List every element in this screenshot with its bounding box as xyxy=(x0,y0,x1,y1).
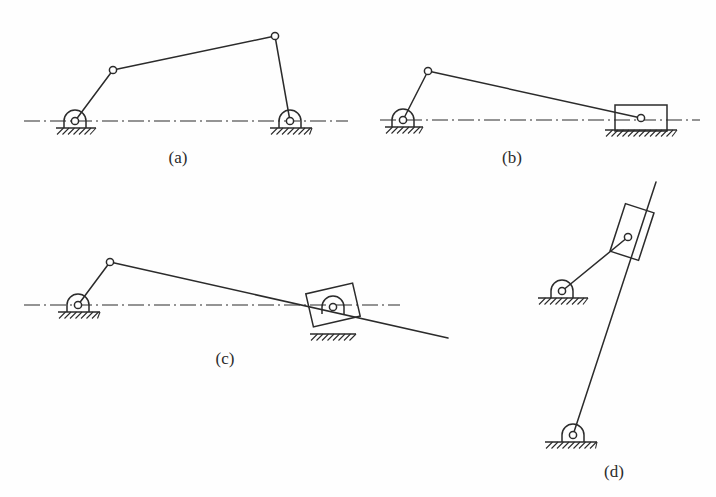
right-ground-pivot[interactable] xyxy=(279,110,301,128)
panel-c xyxy=(24,258,448,340)
hatch-tick xyxy=(328,334,335,341)
hatch-tick xyxy=(293,128,300,135)
panel-label-b: (b) xyxy=(502,148,522,167)
left-ground-base xyxy=(56,128,96,135)
upper-ground-base xyxy=(538,298,588,305)
panel-b xyxy=(380,67,700,136)
left-ground-pivot[interactable] xyxy=(64,110,86,128)
hatch-tick xyxy=(572,298,579,305)
hatch-tick xyxy=(578,298,585,305)
panel-labels-group: (a)(b)(c)(d) xyxy=(169,148,624,481)
tilted-slider-block[interactable] xyxy=(610,204,654,261)
hatch-tick xyxy=(81,312,88,319)
figure-root: (a)(b)(c)(d) xyxy=(0,0,716,497)
block-pin-joint[interactable] xyxy=(624,233,631,240)
hatch-tick xyxy=(322,334,329,341)
hatch-tick xyxy=(408,127,415,134)
hatch-tick xyxy=(563,442,570,449)
hatch-tick xyxy=(277,128,284,135)
short-crank-link[interactable] xyxy=(562,237,628,291)
hatch-tick xyxy=(606,130,613,137)
hatch-tick xyxy=(339,334,346,341)
hatch-tick xyxy=(85,128,92,135)
crank-link[interactable] xyxy=(75,70,113,121)
hatch-tick xyxy=(65,312,72,319)
hatch-tick xyxy=(539,298,546,305)
hatch-tick xyxy=(59,312,66,319)
pivot-pin xyxy=(286,117,293,124)
panel-a xyxy=(24,32,348,134)
hatch-tick xyxy=(579,442,586,449)
hatch-tick xyxy=(556,298,563,305)
connecting-rod[interactable] xyxy=(428,71,641,118)
lower-ground-pivot[interactable] xyxy=(562,424,584,442)
hatch-tick xyxy=(344,334,351,341)
hatch-tick xyxy=(567,298,574,305)
hatch-tick xyxy=(63,128,70,135)
pivot-pin xyxy=(71,117,78,124)
coupler-link[interactable] xyxy=(113,36,275,70)
pivot-pin xyxy=(558,287,565,294)
hatch-tick xyxy=(282,128,289,135)
hatch-tick xyxy=(68,128,75,135)
pivot-pin xyxy=(329,303,336,310)
hatch-tick xyxy=(557,442,564,449)
hatch-tick xyxy=(76,312,83,319)
panel-label-d: (d) xyxy=(604,462,624,481)
panel-label-a: (a) xyxy=(169,148,188,167)
pivot-pin xyxy=(569,431,576,438)
crank-pin-joint[interactable] xyxy=(424,67,431,74)
panel-label-c: (c) xyxy=(216,349,235,368)
hatch-tick xyxy=(79,128,86,135)
hatch-tick xyxy=(87,312,94,319)
hatch-tick xyxy=(70,312,77,319)
hatch-tick xyxy=(561,298,568,305)
upper-right-joint[interactable] xyxy=(271,32,278,39)
slider-body xyxy=(610,204,654,261)
hatch-tick xyxy=(552,442,559,449)
crank-ground-base xyxy=(385,127,423,134)
hatch-tick xyxy=(546,442,553,449)
crank-link[interactable] xyxy=(78,262,110,305)
crank-ground-pivot[interactable] xyxy=(392,109,414,127)
rocker-link[interactable] xyxy=(275,36,290,121)
right-ground-base xyxy=(270,128,312,135)
hatch-tick xyxy=(568,442,575,449)
hatch-tick xyxy=(585,442,592,449)
hatch-tick xyxy=(311,334,318,341)
hatch-tick xyxy=(403,127,410,134)
hatch-tick xyxy=(74,128,81,135)
hatch-tick xyxy=(550,298,557,305)
hatch-tick xyxy=(271,128,278,135)
hatch-tick xyxy=(299,128,306,135)
hatch-tick xyxy=(386,127,393,134)
upper-ground-pivot[interactable] xyxy=(551,280,573,298)
panels-group xyxy=(24,32,700,448)
hatch-tick xyxy=(57,128,64,135)
upper-left-joint[interactable] xyxy=(109,66,116,73)
hatch-tick xyxy=(392,127,399,134)
crank-pin-joint[interactable] xyxy=(106,258,113,265)
hatch-tick xyxy=(288,128,295,135)
hatch-tick xyxy=(545,298,552,305)
hatch-tick xyxy=(90,128,96,135)
hatch-tick xyxy=(333,334,340,341)
sliding-rod-link[interactable] xyxy=(110,262,448,338)
hatch-tick xyxy=(574,442,581,449)
crank-link[interactable] xyxy=(403,71,428,120)
hatch-tick xyxy=(397,127,404,134)
block-ground-base xyxy=(310,334,356,341)
pivot-pin xyxy=(399,116,406,123)
hatch-tick xyxy=(350,334,357,341)
panel-d xyxy=(538,182,656,449)
crank-ground-pivot[interactable] xyxy=(67,294,89,312)
pivot-pin xyxy=(74,301,81,308)
linkage-diagram-canvas: (a)(b)(c)(d) xyxy=(0,0,716,497)
crank-ground-base xyxy=(58,312,100,319)
slider-pin-joint[interactable] xyxy=(637,114,644,121)
long-sliding-link[interactable] xyxy=(573,182,656,435)
hatch-tick xyxy=(317,334,324,341)
lower-ground-base xyxy=(545,442,597,449)
